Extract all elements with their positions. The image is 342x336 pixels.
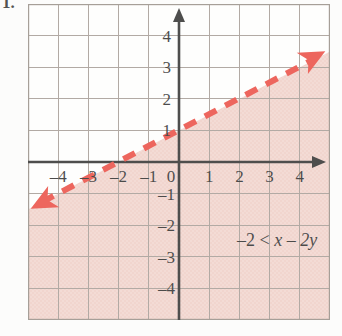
- coordinate-plane-svg: –4 –3 –2 –1 0 1 2 3 4 4 3 2 1: [28, 4, 330, 320]
- x-tick--3: –3: [79, 167, 97, 186]
- inequality-rhs-x: x: [274, 230, 282, 250]
- y-tick--2: –2: [157, 216, 175, 235]
- inequality-rhs-minus: –: [287, 230, 296, 250]
- inequality-annotation: –2 < x – 2y: [237, 230, 317, 251]
- inequality-rhs-2y: 2y: [300, 230, 317, 250]
- graph-figure: 1.: [0, 0, 342, 336]
- x-tick-1: 1: [205, 167, 214, 186]
- y-tick-2: 2: [163, 90, 172, 109]
- origin-tick-0: 0: [167, 167, 176, 186]
- y-tick--4: –4: [157, 279, 176, 298]
- y-tick-1: 1: [163, 121, 172, 140]
- x-tick--4: –4: [49, 167, 67, 186]
- inequality-relation: <: [260, 230, 270, 250]
- x-tick--2: –2: [109, 167, 127, 186]
- problem-number-label: 1.: [2, 0, 15, 13]
- y-tick-3: 3: [163, 58, 172, 77]
- y-tick--3: –3: [157, 248, 175, 267]
- y-tick--1: –1: [157, 185, 175, 204]
- y-tick-4: 4: [163, 27, 172, 46]
- inequality-lhs: –2: [237, 230, 255, 250]
- x-tick-3: 3: [265, 167, 274, 186]
- coordinate-plane: –4 –3 –2 –1 0 1 2 3 4 4 3 2 1: [28, 4, 330, 320]
- x-tick--1: –1: [139, 167, 157, 186]
- x-tick-4: 4: [296, 167, 305, 186]
- x-tick-2: 2: [235, 167, 244, 186]
